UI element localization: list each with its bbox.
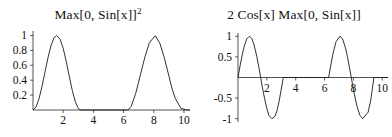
- y-tick-label: 0.2: [13, 89, 28, 101]
- y-tick-label: -0.5: [214, 92, 232, 104]
- x-tick-label: 2: [60, 114, 66, 126]
- x-tick-label: 4: [293, 82, 299, 94]
- y-tick-label: -1: [222, 113, 232, 125]
- x-tick-label: 8: [151, 114, 157, 126]
- y-tick-label: 0.6: [13, 59, 28, 71]
- y-tick-label: 0.4: [13, 74, 28, 86]
- x-tick-label: 10: [178, 114, 190, 126]
- plot-panel-left: Max[0, Sin[x]]2 2468100.20.40.60.81: [0, 0, 196, 137]
- y-tick-label: 0.8: [13, 44, 28, 56]
- x-tick-label: 6: [322, 82, 328, 94]
- plot-svg-right: 246810-1-0.50.51: [196, 0, 392, 137]
- plot-panel-right: 2 Cos[x] Max[0, Sin[x]] 246810-1-0.50.51: [196, 0, 392, 137]
- plot-svg-left: 2468100.20.40.60.81: [0, 0, 196, 137]
- y-tick-label: 1: [226, 30, 232, 42]
- data-curve: [33, 35, 190, 110]
- y-tick-label: 1: [21, 29, 27, 41]
- x-tick-label: 6: [121, 114, 127, 126]
- x-tick-label: 2: [264, 82, 270, 94]
- x-tick-label: 4: [91, 114, 97, 126]
- y-tick-label: 0.5: [218, 51, 233, 63]
- x-tick-label: 10: [376, 82, 388, 94]
